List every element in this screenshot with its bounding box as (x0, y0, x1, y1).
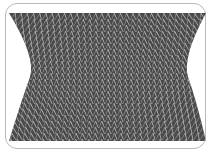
knit-fabric-illustration (0, 0, 216, 156)
fabric-base (0, 0, 216, 156)
